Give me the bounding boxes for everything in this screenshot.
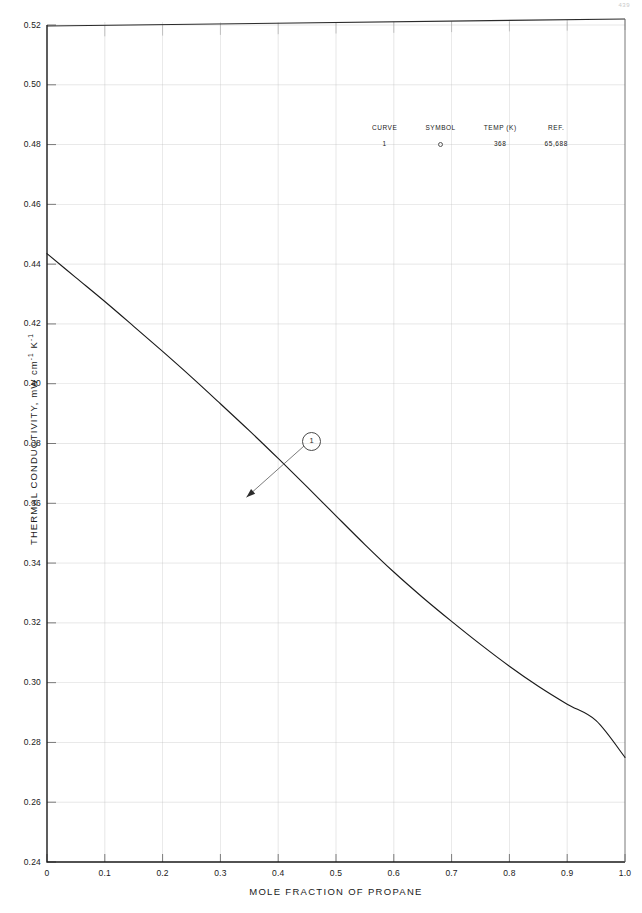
y-axis-title-exponent-1: -1: [27, 352, 34, 360]
legend-header-temp: TEMP (K): [470, 124, 531, 140]
open-circle-icon: [438, 142, 443, 147]
legend-cell-temp: 368: [470, 140, 531, 147]
x-axis-tick-label: 0.3: [203, 868, 237, 878]
y-axis-tick-label: 0.26: [7, 797, 41, 807]
x-axis-tick-label: 0.4: [261, 868, 295, 878]
y-axis-tick-label: 0.48: [7, 139, 41, 149]
callout-leader-line: [246, 446, 304, 497]
y-axis-tick-label: 0.44: [7, 259, 41, 269]
legend: CURVE SYMBOL TEMP (K) REF. 136865,688: [358, 124, 582, 147]
callout-leader-group: [246, 446, 304, 497]
y-axis-tick-label: 0.32: [7, 617, 41, 627]
callout-badge-curve-1: 1: [302, 432, 321, 451]
legend-body: 136865,688: [358, 140, 582, 147]
figure-thermal-conductivity-chart: 0.240.260.280.300.320.340.360.380.400.42…: [0, 0, 642, 913]
y-axis-title-wrapper: THERMAL CONDUCTIVITY, mW cm-1 K-1: [23, 289, 41, 589]
x-axis-tick-label: 0.7: [435, 868, 469, 878]
legend-cell-ref: 65,688: [531, 140, 582, 147]
x-axis-tick-label: 0.6: [377, 868, 411, 878]
x-axis-tick-label: 0.8: [492, 868, 526, 878]
legend-row: 136865,688: [358, 140, 582, 147]
y-axis-title-exponent-2: -1: [27, 333, 34, 341]
legend-cell-symbol: [411, 140, 469, 147]
x-axis-tick-label: 0: [30, 868, 64, 878]
x-axis-tick-label: 1.0: [608, 868, 642, 878]
y-axis-tick-label: 0.46: [7, 199, 41, 209]
x-axis-tick-label: 0.2: [146, 868, 180, 878]
gridlines: [47, 22, 625, 862]
legend-table: CURVE SYMBOL TEMP (K) REF. 136865,688: [358, 124, 582, 147]
y-axis-tick-label: 0.50: [7, 79, 41, 89]
legend-header-ref: REF.: [531, 124, 582, 140]
legend-header-symbol: SYMBOL: [411, 124, 469, 140]
x-axis-tick-label: 0.1: [88, 868, 122, 878]
y-axis-title-mid: K: [28, 341, 39, 352]
y-axis-title: THERMAL CONDUCTIVITY, mW cm-1 K-1: [28, 333, 39, 545]
legend-header-curve: CURVE: [358, 124, 411, 140]
x-axis-title: MOLE FRACTION OF PROPANE: [47, 886, 625, 897]
y-axis-title-text: THERMAL CONDUCTIVITY, mW cm: [28, 360, 39, 545]
legend-cell-curve: 1: [358, 140, 411, 147]
legend-header-row: CURVE SYMBOL TEMP (K) REF.: [358, 124, 582, 140]
x-axis-tick-label: 0.9: [550, 868, 584, 878]
y-axis-tick-label: 0.24: [7, 857, 41, 867]
x-axis-tick-label: 0.5: [319, 868, 353, 878]
y-axis-tick-label: 0.28: [7, 737, 41, 747]
y-axis-tick-label: 0.30: [7, 677, 41, 687]
y-axis-tick-label: 0.52: [7, 20, 41, 30]
